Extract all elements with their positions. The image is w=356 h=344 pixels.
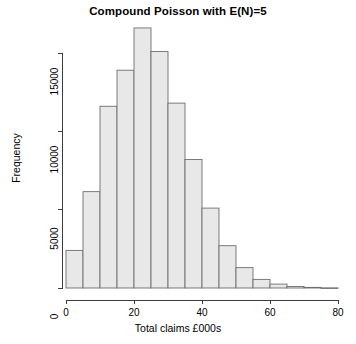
histogram-bar — [100, 106, 117, 288]
histogram-bar — [219, 246, 236, 288]
histogram-figure: Compound Poisson with E(N)=5 Frequency T… — [0, 0, 356, 344]
y-tick-label: 0 — [49, 287, 60, 344]
y-tick-label: 15000 — [49, 52, 60, 112]
histogram-bars — [66, 28, 338, 289]
histogram-bar — [134, 28, 151, 288]
x-tick-label: 40 — [196, 307, 207, 318]
histogram-bar — [236, 268, 253, 288]
histogram-bar — [304, 287, 321, 288]
y-tick-label: 10000 — [49, 130, 60, 190]
x-tick-label: 20 — [128, 307, 139, 318]
histogram-bar — [168, 103, 185, 288]
histogram-bar — [321, 288, 338, 289]
histogram-bar — [185, 160, 202, 288]
histogram-bar — [117, 70, 134, 288]
x-tick-label: 0 — [63, 307, 69, 318]
histogram-bar — [287, 286, 304, 288]
y-tick-label: 5000 — [49, 208, 60, 268]
histogram-bar — [151, 51, 168, 288]
histogram-bar — [270, 284, 287, 288]
histogram-bar — [202, 208, 219, 288]
histogram-bar — [83, 192, 100, 288]
x-tick-label: 60 — [264, 307, 275, 318]
histogram-bar — [66, 250, 83, 288]
x-axis — [66, 300, 338, 304]
histogram-bar — [253, 279, 270, 288]
x-tick-label: 80 — [332, 307, 343, 318]
